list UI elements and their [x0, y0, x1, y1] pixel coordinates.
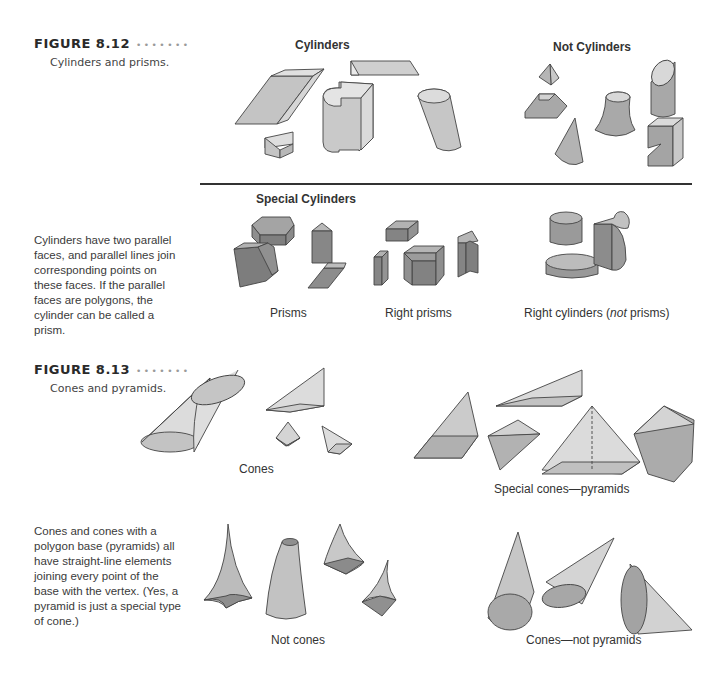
- cylinders-heading: Cylinders: [295, 38, 350, 52]
- cones-not-pyramids-label: Cones—not pyramids: [526, 633, 641, 647]
- right-prisms-illustration: [372, 213, 512, 303]
- right-cylinders-label-pre: Right cylinders (: [524, 306, 610, 320]
- right-cylinders-illustration: [538, 210, 658, 300]
- cones-description: Cones and cones with a polygon base (pyr…: [34, 524, 184, 629]
- not-cones-label: Not cones: [271, 633, 325, 647]
- cylinders-description: Cylinders have two parallel faces, and p…: [34, 233, 184, 338]
- special-cylinders-heading: Special Cylinders: [256, 192, 356, 206]
- section-divider: [200, 183, 692, 185]
- figure-number: FIGURE 8.12: [34, 36, 130, 51]
- figure-number: FIGURE 8.13: [34, 362, 130, 377]
- right-cylinders-label-emphasis: not: [610, 306, 627, 320]
- prisms-label: Prisms: [270, 306, 307, 320]
- not-cones-illustration: [200, 520, 420, 630]
- right-cylinders-label: Right cylinders (not prisms): [524, 306, 669, 320]
- cylinders-illustration: [225, 58, 485, 178]
- cones-not-pyramids-illustration: [476, 530, 716, 630]
- prisms-illustration: [232, 213, 362, 303]
- right-cylinders-label-post: prisms): [627, 306, 670, 320]
- right-prisms-label: Right prisms: [385, 306, 452, 320]
- cones-label: Cones: [239, 462, 274, 476]
- pyramids-illustration: [412, 366, 702, 476]
- figure-8-12-label: FIGURE 8.12•••••••: [34, 36, 191, 51]
- special-cones-label: Special cones—pyramids: [494, 482, 629, 496]
- cones-illustration: [140, 362, 380, 457]
- not-cylinders-illustration: [505, 58, 705, 178]
- not-cylinders-heading: Not Cylinders: [553, 40, 631, 54]
- figure-dots: •••••••: [136, 40, 191, 50]
- figure-8-12-caption: Cylinders and prisms.: [50, 56, 169, 69]
